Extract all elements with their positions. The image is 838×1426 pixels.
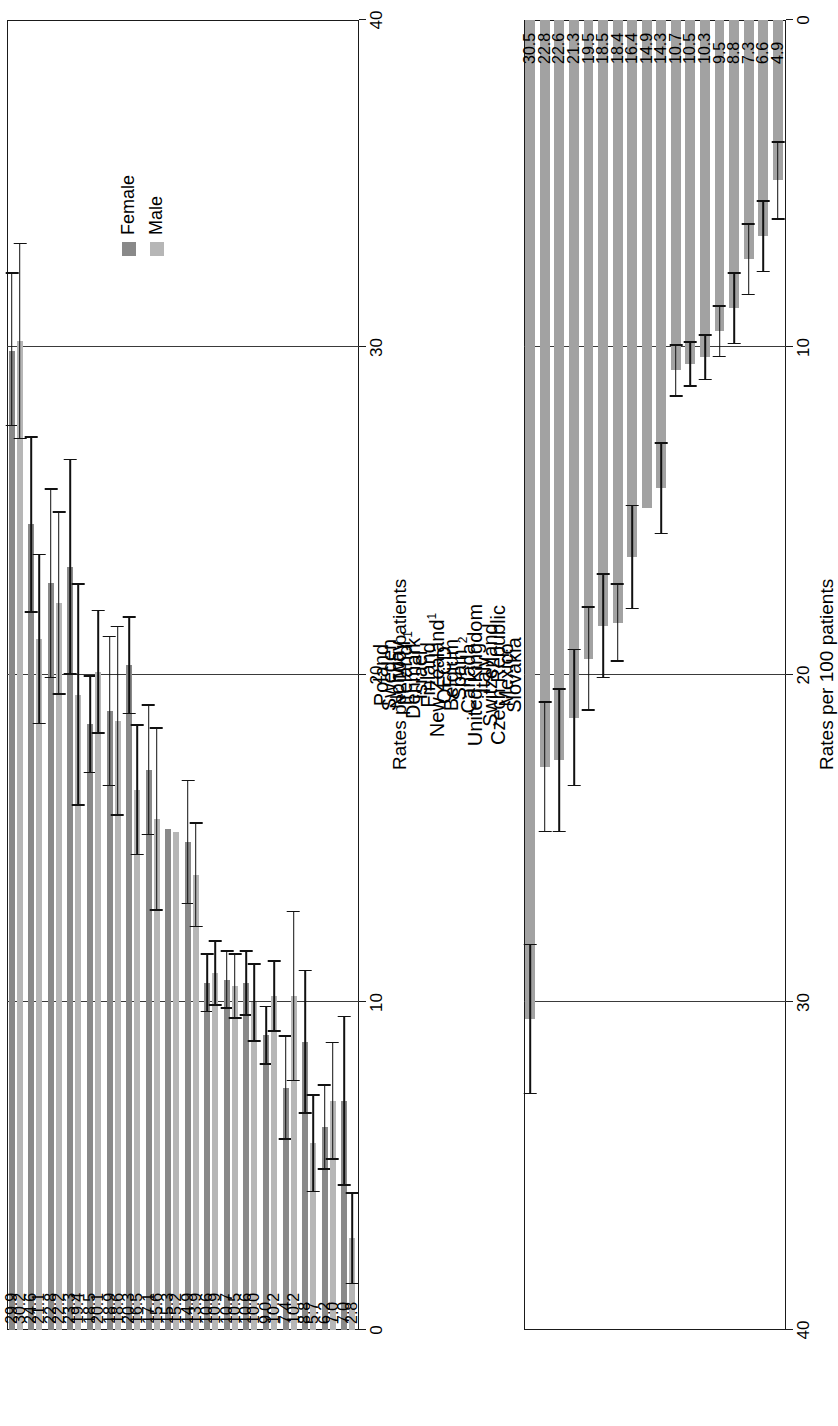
bar (569, 20, 579, 718)
error-bar (762, 200, 764, 272)
error-bar (719, 305, 721, 357)
bar (613, 20, 623, 623)
error-bar (97, 610, 99, 734)
bar (87, 724, 93, 1330)
bar (540, 20, 550, 767)
bar (525, 20, 535, 1019)
bar (598, 20, 608, 626)
error-bar (128, 616, 130, 714)
error-bar (690, 341, 692, 387)
bar (134, 790, 140, 1330)
bar (224, 980, 230, 1330)
axis-tick-label: 10 (794, 338, 814, 357)
bar (126, 665, 132, 1330)
bar (173, 832, 179, 1330)
axis-tick-mark (359, 1329, 366, 1330)
error-bar (195, 822, 197, 927)
x-axis-title-total: Rates per 100 patients (816, 579, 838, 770)
bar (212, 973, 218, 1330)
error-bar (246, 950, 248, 1016)
error-bar (11, 272, 13, 426)
error-bar (660, 443, 662, 535)
error-bar (136, 724, 138, 855)
axis-tick-label: 0 (794, 15, 814, 24)
category-label: Slovakia (510, 14, 518, 1330)
legend-label: Male (146, 196, 167, 235)
error-bar (748, 223, 750, 295)
axis-tick-mark (359, 674, 366, 675)
legend-item[interactable]: Male (146, 175, 167, 256)
legend-label: Female (118, 175, 139, 235)
error-bar (559, 688, 561, 832)
error-bar (273, 960, 275, 1032)
bar (56, 603, 62, 1330)
error-bar (602, 573, 604, 678)
error-bar (588, 606, 590, 711)
error-bar (304, 970, 306, 1114)
bar-value-label: 2.8 (343, 1302, 361, 1324)
error-bar (31, 436, 33, 613)
axis-tick-label: 20 (794, 666, 814, 685)
error-bar (675, 344, 677, 396)
error-bar (156, 727, 158, 910)
error-bar (89, 675, 91, 773)
error-bar (148, 704, 150, 835)
error-bar (544, 701, 546, 832)
error-bar (529, 944, 531, 1095)
category-labels: PolandSwedenNorwayIrelandDenmark1IsraelF… (378, 0, 518, 1426)
axis-tick-label: 40 (794, 1321, 814, 1340)
chart-panel-total: 30.522.822.621.319.518.518.416.414.914.3… (518, 0, 828, 1426)
bar (263, 1035, 269, 1330)
error-bar (293, 911, 295, 1081)
error-bar (187, 780, 189, 904)
bar (107, 711, 113, 1330)
axis-tick-label: 30 (794, 993, 814, 1012)
error-bar (265, 1006, 267, 1065)
bar (243, 983, 249, 1330)
bar (554, 20, 564, 760)
bar (584, 20, 594, 659)
error-bar (324, 1084, 326, 1169)
bar (28, 524, 34, 1330)
axis-tick-mark (786, 19, 793, 20)
error-bar (617, 583, 619, 662)
error-bar (58, 511, 60, 694)
error-bar (215, 940, 217, 1006)
legend-swatch (150, 242, 164, 256)
error-bar (733, 272, 735, 344)
axis-tick-mark (786, 1329, 793, 1330)
bar (95, 672, 101, 1330)
axis-tick-mark (359, 1002, 366, 1003)
bar (17, 341, 23, 1330)
legend-item[interactable]: Female (118, 175, 139, 256)
bar (9, 351, 15, 1330)
axis-tick-mark (359, 19, 366, 20)
bar-value-label: 4.9 (769, 42, 787, 64)
bar (700, 20, 710, 357)
error-bar (704, 334, 706, 380)
bar (204, 983, 210, 1330)
bar (48, 583, 54, 1330)
gridline (524, 1002, 786, 1003)
error-bar (312, 1094, 314, 1192)
error-bar (234, 953, 236, 1019)
bar (271, 996, 277, 1330)
error-bar (573, 649, 575, 787)
error-bar (343, 1016, 345, 1186)
error-bar (117, 626, 119, 816)
error-bar (39, 554, 41, 724)
bar (642, 20, 652, 508)
bar (165, 829, 171, 1330)
error-bar (351, 1192, 353, 1284)
bar (185, 842, 191, 1330)
gridline (7, 347, 359, 348)
error-bar (78, 583, 80, 806)
error-bar (332, 1042, 334, 1160)
bar (146, 770, 152, 1330)
chart-panel-by-sex: 29.930.224.621.122.822.223.319.418.520.1… (0, 0, 378, 1426)
bar (67, 567, 73, 1330)
error-bar (50, 488, 52, 678)
axis-tick-mark (786, 674, 793, 675)
